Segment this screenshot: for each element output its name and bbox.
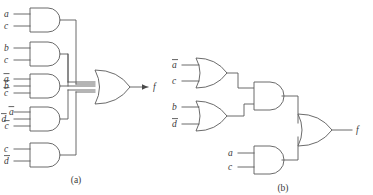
panel-a-and-gate-4[interactable]: [30, 107, 60, 131]
panel-b-or-gate-out[interactable]: [298, 114, 332, 146]
label-a-g2-in2: c: [4, 55, 9, 65]
wire-a-g2-out: [60, 54, 68, 86]
label-a-g1-in2: c: [4, 21, 9, 31]
output-arrow-a: [142, 84, 148, 89]
label-b-g2-in2: d: [172, 119, 177, 129]
label-a-g5-in1: c: [4, 144, 9, 154]
panel-a-and-gate-1[interactable]: [30, 8, 60, 32]
label-a-g2-in1: b: [4, 43, 9, 53]
caption-b: (b): [277, 183, 288, 194]
figure-canvas: a c b c a b c d a c c d f (a) a c b d a …: [0, 0, 373, 195]
label-b-g1-in2: c: [172, 76, 177, 86]
panel-a-and-gate-5[interactable]: [30, 143, 60, 167]
panel-b-or-gate-1[interactable]: [196, 58, 227, 88]
wire-b-mid-out: [282, 96, 298, 123]
caption-a: (a): [71, 175, 82, 186]
panel-a-and-gate-3[interactable]: [30, 74, 60, 98]
panel-a-and-gate-2[interactable]: [30, 42, 60, 66]
wire-b-g4-out: [282, 137, 298, 160]
wire-a-g4-out: [60, 90, 68, 119]
wire-b-g2-out: [227, 104, 254, 116]
label-a-output: f: [153, 82, 157, 92]
panel-b-and-gate-mid[interactable]: [254, 82, 284, 110]
wire-b-g1-out: [227, 73, 254, 88]
panel-a: [1, 8, 148, 167]
label-b-g4-in2: c: [228, 162, 233, 172]
label-b-g2-in1: b: [172, 102, 177, 112]
label-b-g4-in1: a: [228, 148, 233, 158]
label-b-output: f: [356, 125, 360, 135]
panel-b: [172, 58, 352, 174]
label-a-g1-in1: a: [4, 9, 9, 19]
panel-a-or-gate-out[interactable]: [95, 70, 130, 104]
label-a-g5-in2: d: [4, 156, 9, 166]
labels-layer: a c b c a b c d a c c d f (a) a c b d a …: [2, 9, 361, 194]
label-a-g4-in2: a: [9, 107, 14, 117]
label-b-g1-in1: a: [172, 60, 177, 70]
panel-b-or-gate-2[interactable]: [196, 101, 227, 131]
panel-b-and-gate-bot[interactable]: [254, 146, 284, 174]
label-a-g4-in3: c: [5, 121, 10, 131]
